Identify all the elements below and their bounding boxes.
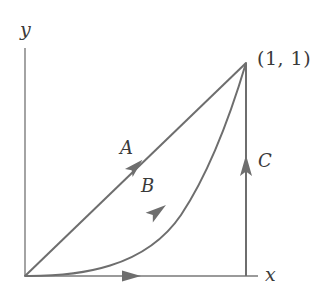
diagram-canvas — [0, 0, 324, 299]
path-a-direction-arrow-icon — [125, 156, 146, 177]
path-b-label: B — [141, 177, 154, 195]
corner-point-label: (1, 1) — [257, 49, 311, 68]
path-b-direction-arrow-icon — [146, 200, 170, 222]
x-axis-direction-arrow-icon — [122, 271, 141, 282]
vector-field-path-diagram: y x (1, 1) A B C — [0, 0, 324, 299]
path-c-label: C — [258, 152, 272, 170]
y-axis-label: y — [20, 20, 31, 39]
x-axis-label: x — [265, 265, 276, 284]
path-a-label: A — [120, 139, 133, 157]
